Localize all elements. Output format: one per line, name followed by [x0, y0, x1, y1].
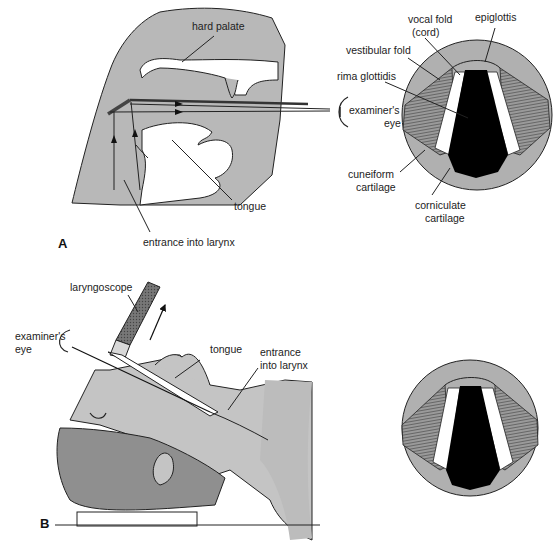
label-tongue-b: tongue	[210, 343, 242, 355]
label-eye-a: eye	[384, 117, 401, 129]
panel-b: laryngoscope examiner's eye tongue entra…	[15, 281, 538, 540]
label-entrance-into-larynx: entrance into larynx	[143, 236, 235, 248]
label-epiglottis: epiglottis	[475, 11, 516, 23]
label-vocal-fold-cord: (cord)	[412, 26, 439, 38]
label-entrance-b: entrance	[260, 346, 301, 358]
label-into-larynx-b: into larynx	[260, 359, 309, 371]
label-corniculate: corniculate	[415, 199, 466, 211]
label-vocal-fold: vocal fold	[408, 13, 453, 25]
label-hard-palate: hard palate	[192, 20, 245, 32]
panel-a: hard palate tongue entrance into larynx …	[58, 8, 552, 251]
laryngeal-view-a	[402, 40, 552, 190]
label-tongue: tongue	[234, 200, 266, 212]
label-examiners-eye-b: examiner's	[15, 330, 65, 342]
panel-letter-a: A	[58, 236, 68, 251]
pillow	[77, 512, 197, 526]
neck-drape	[260, 380, 312, 540]
label-eye-b: eye	[15, 343, 32, 355]
label-corniculate-cartilage: cartilage	[425, 212, 465, 224]
panel-letter-b: B	[40, 516, 49, 531]
laryngoscopy-diagram: hard palate tongue entrance into larynx …	[0, 0, 558, 550]
label-cuneiform: cuneiform	[348, 168, 394, 180]
label-cuneiform-cartilage: cartilage	[356, 181, 396, 193]
lift-arrow	[150, 305, 165, 340]
label-rima-glottidis: rima glottidis	[337, 70, 396, 82]
label-vestibular-fold: vestibular fold	[346, 44, 411, 56]
laryngeal-view-b	[402, 360, 538, 496]
label-examiners-eye-a: examiner's	[349, 104, 399, 116]
label-laryngoscope: laryngoscope	[70, 281, 133, 293]
